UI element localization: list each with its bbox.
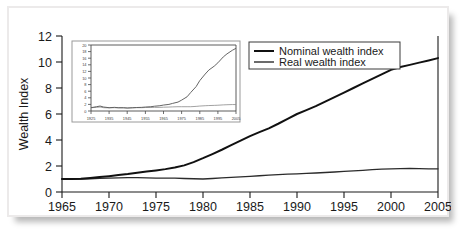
svg-text:1975: 1975 [177, 116, 186, 121]
y-tick-label: 2 [45, 160, 52, 174]
x-tick-2005: 2005 [424, 192, 451, 214]
y-tick-label: 0 [45, 186, 52, 200]
x-tick-label: 1980 [189, 200, 217, 214]
svg-text:18: 18 [82, 49, 86, 54]
y-tick-label: 8 [45, 82, 52, 96]
x-tick-label: 2005 [424, 200, 451, 214]
y-tick-label: 12 [38, 30, 52, 44]
x-axis-ticks: 1965 1970 1975 1980 1985 [48, 192, 451, 214]
svg-text:1955: 1955 [141, 116, 150, 121]
svg-text:1965: 1965 [159, 116, 168, 121]
x-tick-1995: 1995 [330, 192, 358, 214]
x-tick-1990: 1990 [283, 192, 311, 214]
y-tick-0: 0 [45, 186, 62, 200]
x-tick-1965: 1965 [48, 192, 76, 214]
y-tick-6: 6 [45, 108, 62, 122]
x-tick-label: 2000 [377, 200, 405, 214]
figure-root: 12 10 8 6 4 [0, 0, 471, 236]
y-tick-label: 6 [45, 108, 52, 122]
inset-frame [72, 41, 240, 122]
svg-text:1935: 1935 [105, 116, 114, 121]
x-tick-label: 1985 [236, 200, 264, 214]
x-tick-1980: 1980 [189, 192, 217, 214]
y-axis-ticks: 12 10 8 6 4 [38, 30, 62, 200]
x-tick-1985: 1985 [236, 192, 264, 214]
svg-text:16: 16 [82, 56, 86, 61]
y-tick-12: 12 [38, 30, 62, 44]
x-tick-label: 1990 [283, 200, 311, 214]
chart-legend: Nominal wealth index Real wealth index [249, 42, 400, 69]
svg-text:2005: 2005 [232, 116, 241, 121]
svg-text:2: 2 [84, 102, 86, 107]
y-tick-label: 4 [45, 134, 52, 148]
wealth-index-line-chart: 12 10 8 6 4 [9, 8, 451, 219]
svg-text:8: 8 [84, 82, 86, 87]
x-tick-label: 1975 [142, 200, 170, 214]
legend-label-real: Real wealth index [279, 56, 366, 68]
y-tick-8: 8 [45, 82, 62, 96]
y-axis-title: Wealth Index [17, 77, 31, 150]
svg-text:6: 6 [84, 89, 86, 94]
x-tick-label: 1995 [330, 200, 358, 214]
svg-text:12: 12 [82, 69, 86, 74]
y-tick-4: 4 [45, 134, 62, 148]
figure-card: 12 10 8 6 4 [7, 6, 449, 217]
svg-text:1945: 1945 [123, 116, 132, 121]
svg-text:1995: 1995 [214, 116, 223, 121]
series-line-real-wealth-index [62, 168, 438, 179]
svg-text:1985: 1985 [195, 116, 204, 121]
y-tick-2: 2 [45, 160, 62, 174]
x-tick-2000: 2000 [377, 192, 405, 214]
svg-text:1925: 1925 [87, 116, 96, 121]
inset-chart: 20 18 16 14 12 10 8 6 4 2 0 1925 1935 19… [72, 41, 240, 122]
x-tick-label: 1970 [95, 200, 123, 214]
x-tick-label: 1965 [48, 200, 76, 214]
y-tick-10: 10 [38, 56, 62, 70]
x-tick-1975: 1975 [142, 192, 170, 214]
x-tick-1970: 1970 [95, 192, 123, 214]
y-tick-label: 10 [38, 56, 52, 70]
